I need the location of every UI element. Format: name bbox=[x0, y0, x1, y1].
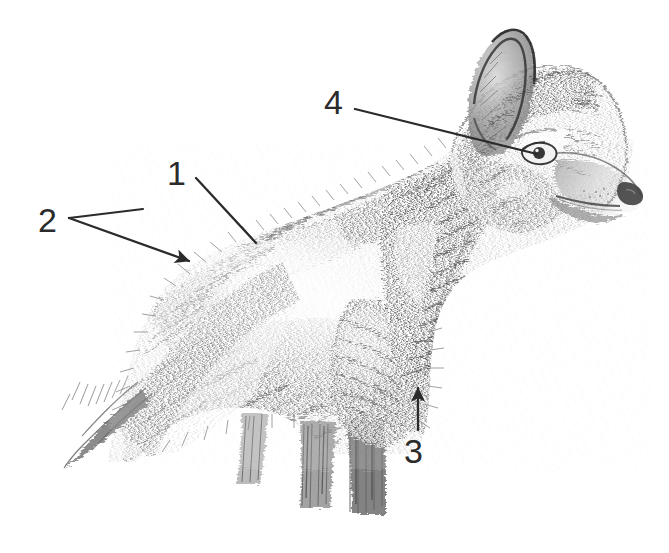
graphite-grain bbox=[110, 140, 650, 470]
callout-label-1: 1 bbox=[167, 156, 186, 190]
wolf-figure: Graphite pencil drawing of a wolf in lef… bbox=[0, 0, 669, 553]
callout-label-4: 4 bbox=[324, 85, 343, 119]
callout-label-3: 3 bbox=[404, 434, 423, 468]
callout-label-2: 2 bbox=[38, 203, 57, 237]
